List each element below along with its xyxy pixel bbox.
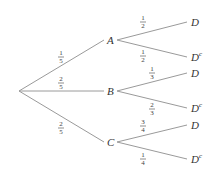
- svg-text:c: c: [199, 152, 203, 160]
- edge-A-D: [117, 22, 187, 40]
- svg-text:1: 1: [141, 14, 145, 22]
- prob-C: 2 5: [58, 120, 64, 136]
- svg-text:2: 2: [141, 56, 145, 64]
- svg-text:4: 4: [141, 126, 145, 134]
- leaf-B-Dc: D c: [190, 101, 203, 114]
- prob-B-D: 1 3: [149, 65, 155, 81]
- prob-B: 2 5: [58, 75, 64, 91]
- svg-text:c: c: [199, 101, 203, 109]
- prob-B-Dc: 2 3: [149, 101, 155, 117]
- svg-text:2: 2: [59, 75, 63, 83]
- svg-text:2: 2: [141, 22, 145, 30]
- leaf-A-D: D: [190, 16, 199, 28]
- svg-text:5: 5: [59, 57, 63, 65]
- prob-C-D: 3 4: [140, 118, 146, 134]
- svg-text:3: 3: [150, 73, 154, 81]
- svg-text:3: 3: [141, 118, 145, 126]
- edge-C-D: [117, 125, 187, 142]
- probability-tree-diagram: A B C D D c D D c D D c 1 5 2 5 2 5 1 2 …: [0, 0, 213, 179]
- svg-text:3: 3: [150, 109, 154, 117]
- svg-text:c: c: [199, 50, 203, 58]
- svg-text:1: 1: [150, 65, 154, 73]
- prob-A-D: 1 2: [140, 14, 146, 30]
- svg-text:2: 2: [59, 120, 63, 128]
- leaf-B-D: D: [190, 67, 199, 79]
- leaf-C-Dc: D c: [190, 152, 203, 165]
- node-B: B: [107, 85, 114, 97]
- prob-A: 1 5: [58, 49, 64, 65]
- svg-text:D: D: [190, 102, 199, 114]
- edge-A-Dc: [117, 40, 187, 57]
- node-C: C: [107, 136, 115, 148]
- prob-C-Dc: 1 4: [140, 151, 146, 167]
- svg-text:1: 1: [59, 49, 63, 57]
- svg-text:5: 5: [59, 83, 63, 91]
- svg-text:5: 5: [59, 128, 63, 136]
- svg-text:2: 2: [150, 101, 154, 109]
- svg-text:1: 1: [141, 151, 145, 159]
- prob-A-Dc: 1 2: [140, 48, 146, 64]
- svg-text:D: D: [190, 51, 199, 63]
- leaf-A-Dc: D c: [190, 50, 203, 63]
- svg-text:1: 1: [141, 48, 145, 56]
- leaf-C-D: D: [190, 119, 199, 131]
- node-A: A: [106, 34, 114, 46]
- svg-text:4: 4: [141, 159, 145, 167]
- svg-text:D: D: [190, 153, 199, 165]
- edge-C-Dc: [117, 142, 187, 159]
